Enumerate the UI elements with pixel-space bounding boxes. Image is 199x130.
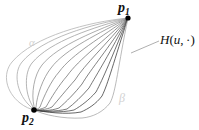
endpoint-nodes	[31, 15, 130, 112]
curve-09	[34, 18, 128, 111]
curve-01	[17, 18, 128, 110]
node-label-p1-sub: 1	[125, 7, 130, 17]
math-figure: p1 p2 H(u, ·) α β	[0, 0, 199, 130]
callout-leader-group	[131, 41, 159, 53]
callout-leader	[131, 41, 159, 53]
homotopy-label-H: H	[160, 32, 169, 47]
curve-10	[34, 18, 128, 112]
curve-family-group	[6, 18, 128, 118]
homotopy-label-close: )	[190, 32, 194, 47]
node-label-p2-base: p	[22, 110, 29, 125]
node-label-p1: p1	[118, 1, 130, 17]
curve-11	[34, 18, 128, 113]
alpha-label: α	[29, 37, 35, 48]
curve-outer-upper	[6, 18, 128, 110]
node-label-p2-sub: 2	[29, 117, 34, 127]
homotopy-label: H(u, ·)	[160, 33, 195, 46]
node-label-p2: p2	[22, 111, 34, 127]
beta-label: β	[119, 92, 125, 104]
node-label-p1-base: p	[118, 0, 125, 15]
